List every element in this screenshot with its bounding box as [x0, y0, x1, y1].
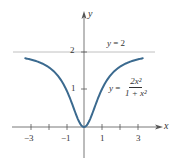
- curve-annotation-equals: =: [113, 83, 120, 93]
- asymptote-annotation-eq: = 2: [111, 38, 125, 48]
- fraction-denominator: 1 + x²: [125, 88, 147, 98]
- curve-annotation-lhs: y =: [109, 84, 120, 93]
- y-axis-label: y: [88, 9, 92, 19]
- tick-label-x-1: 1: [100, 134, 105, 143]
- x-axis-label: x: [164, 121, 168, 131]
- tick-label-x-3: 3: [136, 134, 141, 143]
- tick-label-y-1: 1: [71, 84, 76, 93]
- asymptote-annotation: y = 2: [107, 39, 125, 48]
- tick-label-x-m1: −1: [61, 134, 71, 143]
- fraction-numerator: 2x²: [129, 77, 142, 88]
- curve-annotation-fraction: 2x² 1 + x²: [125, 77, 147, 98]
- tick-label-x-m3: −3: [24, 134, 34, 143]
- tick-label-y-2: 2: [70, 46, 75, 55]
